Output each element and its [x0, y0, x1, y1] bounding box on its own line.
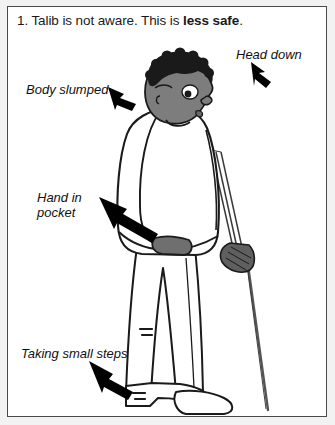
callout-label-head-down: Head down: [236, 47, 302, 62]
callout-label-body-slumped: Body slumped: [26, 82, 108, 97]
illustration-panel: 1. Talib is not aware. This is less safe…: [0, 0, 335, 425]
title-emphasis-text: less safe: [183, 13, 239, 28]
callout-label-taking-small-steps: Taking small steps: [21, 346, 127, 361]
title-tail-text: .: [239, 13, 243, 28]
callout-label-hand-in-pocket: Hand in pocket: [37, 190, 82, 220]
title-plain-text: 1. Talib is not aware. This is: [17, 13, 183, 28]
page-title: 1. Talib is not aware. This is less safe…: [17, 13, 243, 29]
